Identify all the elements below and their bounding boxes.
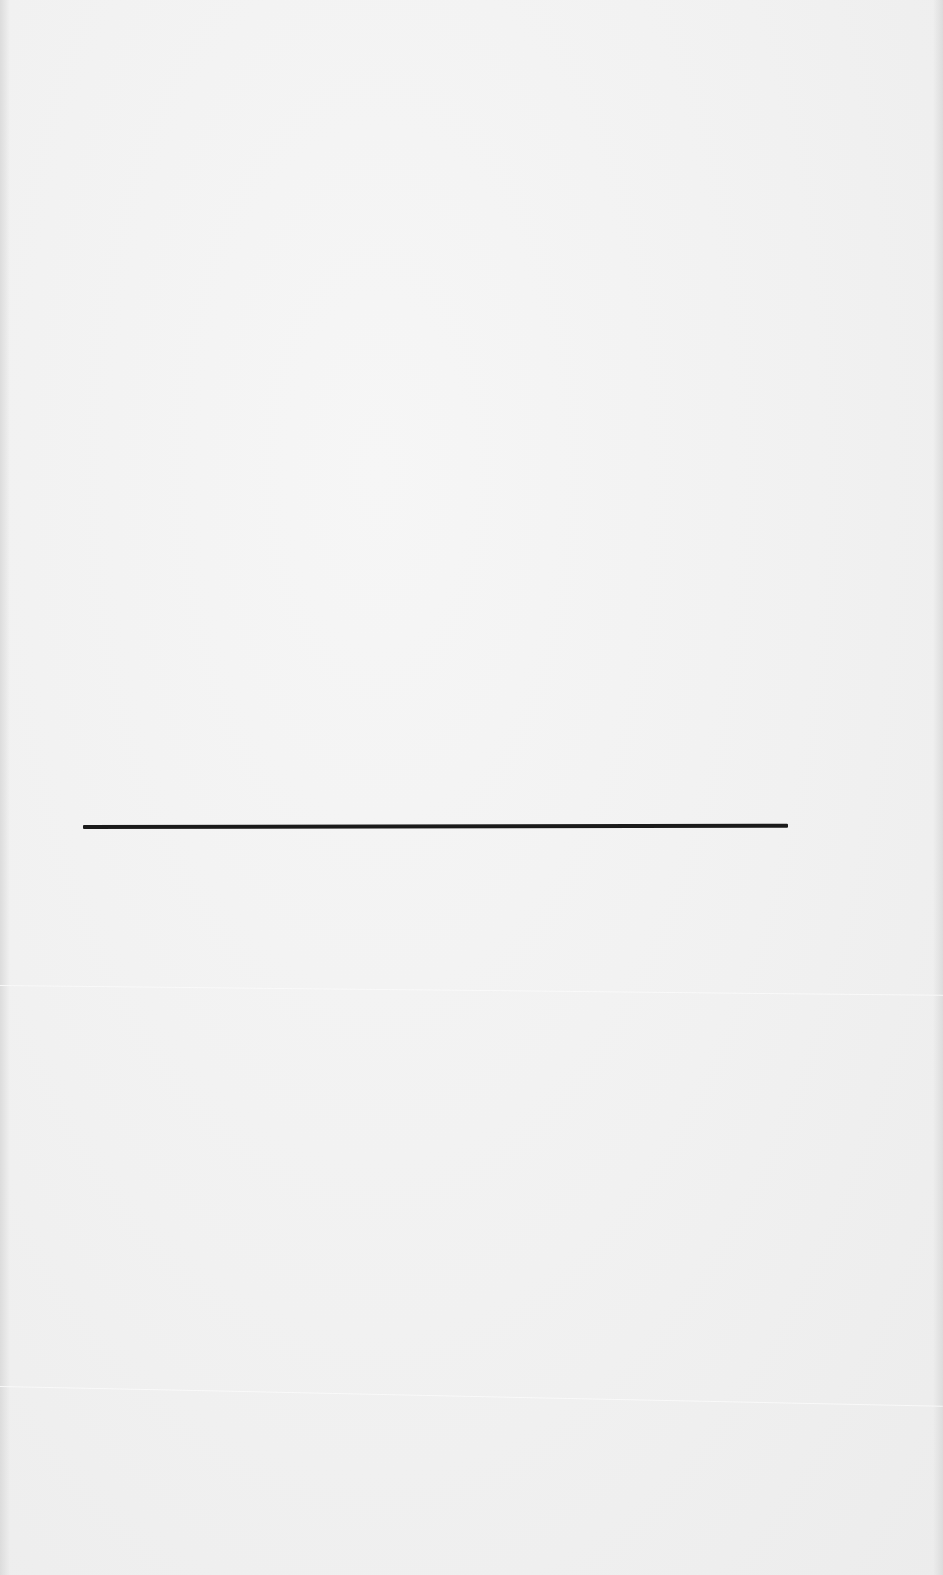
page-edge-left xyxy=(0,0,10,1575)
page-edge-right xyxy=(933,0,943,1575)
paper-background xyxy=(0,0,943,1575)
